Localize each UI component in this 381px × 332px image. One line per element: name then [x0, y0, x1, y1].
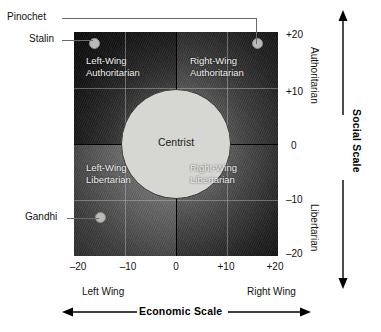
x-axis-title: Economic Scale: [139, 305, 222, 317]
x-tick-plus20: +20: [255, 261, 295, 272]
y-axis-top-endcap-label: Authoritarian: [309, 47, 320, 104]
leader-line-pinochet-vertical: [256, 18, 257, 44]
quadrant-label-right-wing-libertarian: Right-Wing Libertarian: [190, 162, 237, 185]
callout-label-gandhi: Gandhi: [25, 211, 57, 222]
plot-area: Centrist Left-Wing Authoritarian Right-W…: [74, 32, 278, 256]
quadrant-label-left-wing-authoritarian: Left-Wing Authoritarian: [86, 55, 140, 78]
y-axis-title: Social Scale: [351, 109, 363, 173]
y-tick-plus20: +20: [286, 29, 303, 40]
x-axis-right-endcap-label: Right Wing: [247, 286, 296, 297]
data-point-gandhi[interactable]: [95, 212, 106, 223]
y-axis-down-arrow: [334, 180, 352, 290]
y-tick-zero: 0: [291, 140, 297, 151]
centrist-label: Centrist: [122, 136, 230, 148]
leader-line-gandhi: [67, 218, 99, 219]
leader-line-pinochet-horizontal: [62, 18, 257, 19]
political-compass-figure: Centrist Left-Wing Authoritarian Right-W…: [0, 0, 381, 332]
x-axis-left-arrow: [62, 303, 142, 321]
data-point-pinochet[interactable]: [252, 38, 263, 49]
y-tick-plus10: +10: [286, 86, 303, 97]
y-tick-minus20: –20: [286, 248, 303, 259]
x-tick-minus20: –20: [58, 261, 98, 272]
x-axis-left-endcap-label: Left Wing: [82, 286, 124, 297]
quadrant-label-left-wing-libertarian: Left-Wing Libertarian: [86, 162, 131, 185]
x-axis-right-arrow: [228, 303, 313, 321]
x-tick-minus10: –10: [108, 261, 148, 272]
y-tick-minus10: –10: [286, 194, 303, 205]
callout-label-pinochet: Pinochet: [7, 11, 46, 22]
y-axis-up-arrow: [334, 10, 352, 120]
y-axis-bottom-endcap-label: Libertarian: [309, 204, 320, 251]
x-tick-plus10: +10: [206, 261, 246, 272]
callout-label-stalin: Stalin: [29, 33, 54, 44]
x-tick-zero: 0: [156, 261, 196, 272]
quadrant-label-right-wing-authoritarian: Right-Wing Authoritarian: [190, 55, 244, 78]
leader-line-stalin: [62, 40, 93, 41]
